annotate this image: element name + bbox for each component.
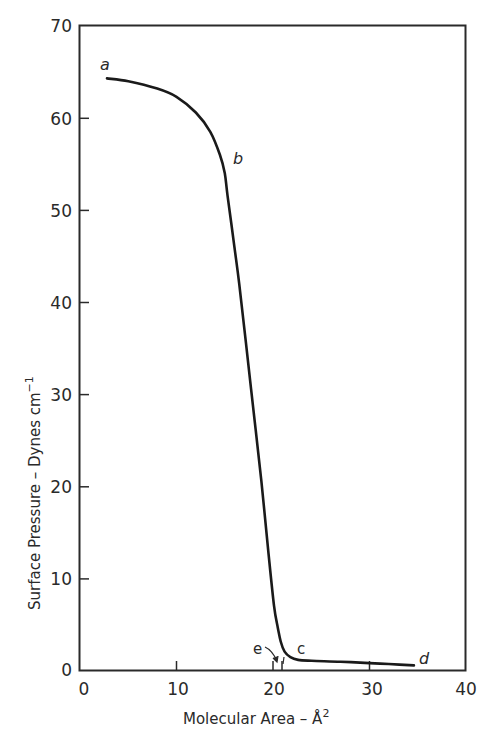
y-tick-50: 50 <box>50 201 72 221</box>
plot-frame <box>80 26 466 671</box>
y-tick-10: 10 <box>50 569 72 589</box>
y-axis-ticks <box>80 118 89 579</box>
y-tick-70: 70 <box>50 16 72 36</box>
x-tick-labels: 0 10 20 30 40 <box>79 679 477 699</box>
y-tick-60: 60 <box>50 109 72 129</box>
point-label-a: a <box>100 55 110 74</box>
isotherm-chart: 0 10 20 30 40 50 60 70 0 10 20 30 40 Mol… <box>0 0 492 742</box>
x-tick-40: 40 <box>455 679 477 699</box>
point-label-d: d <box>419 649 430 668</box>
y-tick-30: 30 <box>50 385 72 405</box>
y-tick-0: 0 <box>61 660 72 680</box>
y-tick-40: 40 <box>50 293 72 313</box>
isotherm-curve <box>107 78 414 665</box>
y-tick-labels: 0 10 20 30 40 50 60 70 <box>50 16 72 680</box>
e-arrow-icon <box>265 647 284 664</box>
point-label-b: b <box>233 149 243 168</box>
x-tick-30: 30 <box>361 679 383 699</box>
x-tick-20: 20 <box>263 679 285 699</box>
x-axis-label: Molecular Area – Å2 <box>183 707 329 728</box>
point-label-c: c <box>297 640 305 658</box>
y-axis-label: Surface Pressure – Dynes cm−1 <box>23 376 44 610</box>
x-tick-0: 0 <box>79 679 90 699</box>
point-label-e: e <box>253 640 262 658</box>
x-tick-10: 10 <box>167 679 189 699</box>
y-tick-20: 20 <box>50 477 72 497</box>
